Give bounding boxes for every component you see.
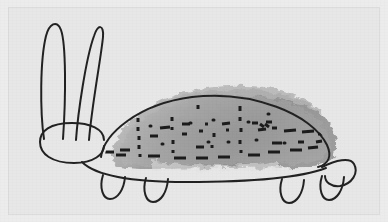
sketch-drawing [0, 0, 388, 222]
sketch-canvas: Hand-drawn rabbit creature sketch rabbit… [0, 0, 388, 222]
